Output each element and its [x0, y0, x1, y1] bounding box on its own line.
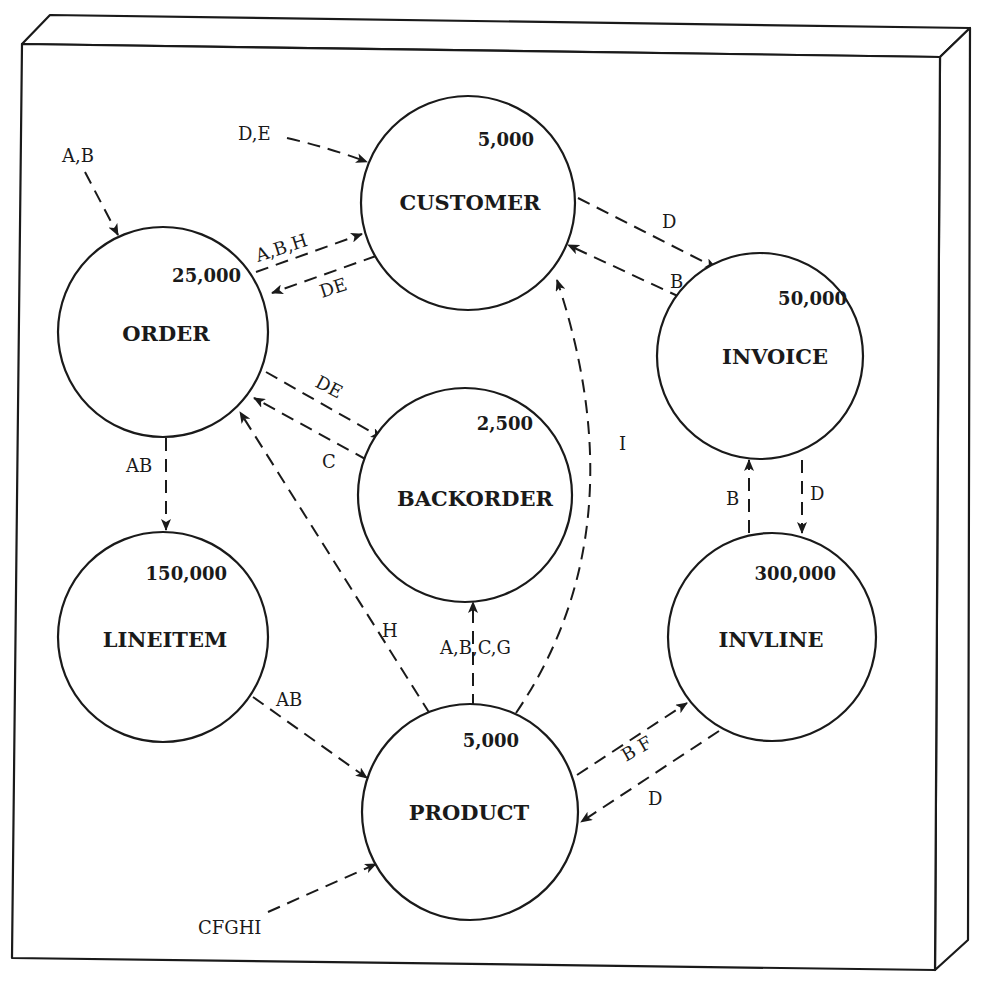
node-customer: 5,000 CUSTOMER: [361, 96, 575, 310]
entity-name: INVLINE: [718, 627, 823, 652]
entity-count: 5,000: [463, 730, 519, 751]
edge-label: A,B: [61, 145, 94, 166]
node-backorder: 2,500 BACKORDER: [358, 388, 572, 602]
edge-label: D: [662, 211, 676, 232]
edge-label: D: [810, 483, 824, 504]
entity-name: INVOICE: [722, 344, 828, 369]
edge-label: C: [322, 451, 336, 472]
entity-access-diagram: A,B D,E A,B,H DE D B DE: [0, 0, 985, 981]
edge-label: AB: [275, 689, 302, 710]
edge-label: CFGHI: [198, 917, 261, 938]
entity-count: 50,000: [778, 288, 847, 309]
entity-name: PRODUCT: [409, 800, 530, 825]
entity-count: 300,000: [755, 563, 836, 584]
node-invoice: 50,000 INVOICE: [657, 253, 863, 459]
edge-label: D,E: [238, 123, 271, 144]
node-product: 5,000 PRODUCT: [362, 704, 578, 920]
entity-name: LINEITEM: [103, 627, 228, 652]
edge-label: H: [382, 620, 398, 641]
edge-label: A,B,C,G: [439, 637, 511, 658]
edge-label: I: [619, 433, 626, 454]
entity-name: CUSTOMER: [400, 190, 541, 215]
node-lineitem: 150,000 LINEITEM: [58, 532, 268, 742]
entity-name: BACKORDER: [397, 486, 553, 511]
node-order: 25,000 ORDER: [58, 227, 268, 437]
edge-label: AB: [125, 455, 152, 476]
entity-count: 150,000: [146, 563, 227, 584]
entity-count: 5,000: [478, 129, 534, 150]
entity-name: ORDER: [122, 321, 210, 346]
entity-count: 2,500: [477, 413, 533, 434]
edge-label: D: [648, 788, 662, 809]
node-invline: 300,000 INVLINE: [668, 533, 876, 741]
entity-count: 25,000: [172, 265, 241, 286]
edge-label: B: [726, 488, 739, 509]
